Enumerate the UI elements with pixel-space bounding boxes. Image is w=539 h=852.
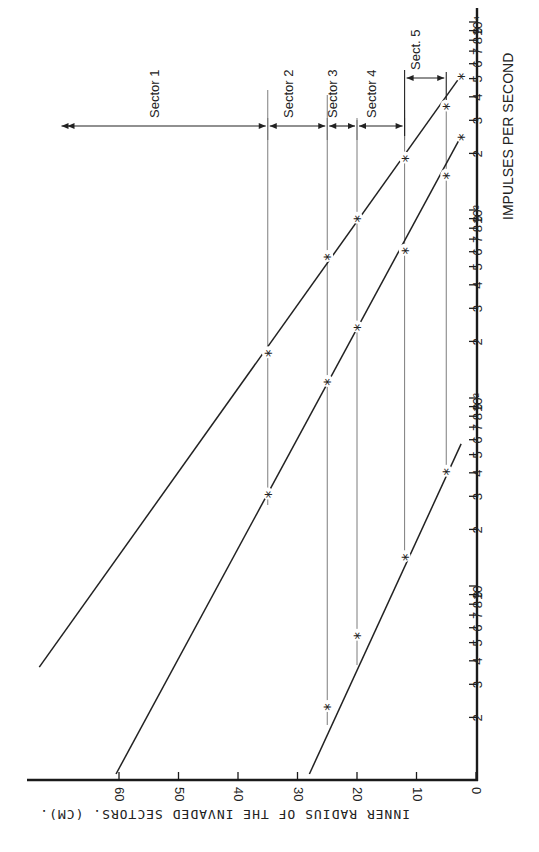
impulse-tick-label: 7 (470, 612, 485, 619)
impulse-tick-label: 2 (470, 150, 485, 157)
impulse-tick-label: 8 (470, 37, 485, 44)
asterisk-marker: * (393, 155, 411, 163)
asterisk-marker: * (256, 491, 274, 499)
asterisk-marker: * (345, 632, 363, 640)
asterisk-marker: * (256, 350, 274, 358)
impulse-tick-label: 3 (470, 681, 485, 688)
impulse-tick-label: 4 (470, 282, 485, 289)
sector-label: Sector 2 (281, 70, 296, 118)
sector-label: Sector 4 (364, 70, 379, 118)
x-axis-title: IMPULSES PER SECOND (500, 53, 516, 220)
asterisk-marker: * (345, 324, 363, 332)
impulse-tick-label: 8 (470, 413, 485, 420)
impulse-tick-label: 10³ (470, 205, 485, 224)
arrowhead-icon (407, 75, 414, 81)
arrowhead-icon (329, 123, 336, 129)
series-lines (39, 75, 461, 774)
axes (27, 8, 478, 781)
impulse-tick-label: 4 (470, 658, 485, 665)
impulse-tick-label: 7 (470, 48, 485, 55)
asterisk-marker: * (345, 215, 363, 223)
impulse-tick-label: 8 (470, 601, 485, 608)
asterisk-marker: * (393, 247, 411, 255)
impulse-tick-label: 8 (470, 225, 485, 232)
sector-label: Sect. 5 (408, 30, 423, 70)
arrowhead-icon (259, 123, 266, 129)
sector-label: Sector 3 (325, 70, 340, 118)
arrowhead-icon (437, 75, 444, 81)
asterisk-marker: * (449, 73, 467, 81)
radius-ticks: 0102030405060 (112, 772, 484, 801)
asterisk-marker: * (315, 703, 333, 711)
impulse-tick-label: 5 (470, 263, 485, 270)
sector-label: Sector 1 (147, 70, 162, 118)
arrowhead-icon (62, 123, 69, 129)
impulse-tick-label: 7 (470, 424, 485, 431)
sector-annotations: Sector 1Sector 2Sector 3Sector 4Sect. 5 (62, 30, 447, 140)
chart-canvas: **************** 0102030405060 234567891… (0, 0, 539, 852)
impulse-tick-label: 5 (470, 639, 485, 646)
arrowhead-icon (348, 123, 355, 129)
impulse-tick-label: 5 (470, 75, 485, 82)
arrowhead-icon (68, 123, 75, 129)
impulse-tick-label: 6 (470, 624, 485, 631)
impulse-tick-label: 4 (470, 470, 485, 477)
asterisk-marker: * (315, 253, 333, 261)
impulse-tick-label: 6 (470, 436, 485, 443)
radius-tick-label: 50 (172, 787, 187, 801)
asterisk-marker: * (315, 378, 333, 386)
impulse-tick-label: 6 (470, 60, 485, 67)
data-markers: **************** (256, 69, 467, 712)
radius-tick-label: 0 (469, 787, 484, 794)
impulse-tick-label: 3 (470, 305, 485, 312)
impulse-tick-label: 2 (470, 714, 485, 721)
impulse-tick-label: 2 (470, 526, 485, 533)
asterisk-marker: * (434, 468, 452, 476)
arrowhead-icon (318, 123, 325, 129)
asterisk-marker: * (449, 133, 467, 141)
impulse-tick-label: 6 (470, 248, 485, 255)
impulse-tick-label: 4 (470, 94, 485, 101)
radius-tick-label: 30 (291, 787, 306, 801)
arrowhead-icon (270, 123, 277, 129)
arrowhead-icon (396, 123, 403, 129)
radius-tick-label: 40 (231, 787, 246, 801)
radius-tick-label: 60 (112, 787, 127, 801)
impulse-tick-label: 3 (470, 117, 485, 124)
impulse-tick-label: 7 (470, 236, 485, 243)
radius-tick-label: 20 (350, 787, 365, 801)
series-line-2 (116, 136, 461, 774)
impulse-tick-label: 3 (470, 493, 485, 500)
asterisk-marker: * (434, 172, 452, 180)
y-axis-title: INNER RADIUS OF THE INVADED SECTORS. (CM… (39, 807, 410, 822)
series-line-1 (39, 75, 461, 667)
arrowhead-icon (359, 123, 366, 129)
impulse-tick-label: 10 (470, 586, 485, 600)
asterisk-marker: * (434, 103, 452, 111)
impulse-tick-label: 2 (470, 338, 485, 345)
impulse-tick-label: 10⁴ (470, 16, 485, 36)
radius-tick-label: 10 (410, 787, 425, 801)
asterisk-marker: * (393, 553, 411, 561)
series-line-3 (309, 444, 461, 774)
impulse-tick-label: 5 (470, 451, 485, 458)
impulse-tick-label: 10² (470, 393, 485, 412)
